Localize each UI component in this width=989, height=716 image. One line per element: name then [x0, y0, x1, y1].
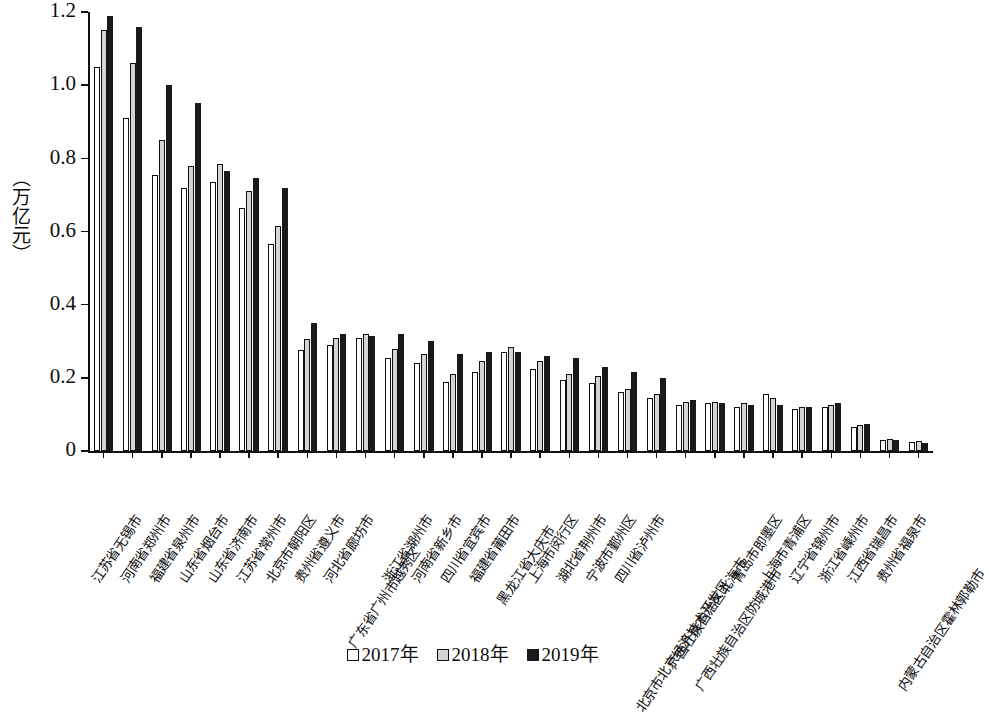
bar-group: [555, 12, 584, 451]
bar-group: [235, 12, 264, 451]
bar: [392, 349, 398, 451]
bar: [660, 378, 666, 451]
bar: [304, 339, 310, 451]
bar: [268, 244, 274, 451]
bar: [676, 405, 682, 451]
bar: [239, 208, 245, 451]
bar: [450, 374, 456, 451]
bar-group: [147, 12, 176, 451]
bar: [618, 392, 624, 451]
bar: [152, 175, 158, 451]
bar: [217, 164, 223, 451]
bar: [544, 356, 550, 451]
bar-group: [409, 12, 438, 451]
bar: [311, 323, 317, 451]
bar-group: [846, 12, 875, 451]
x-axis-label-text: 内蒙古自治区霍林郭勒市: [896, 567, 988, 693]
bar: [719, 403, 725, 451]
bar: [647, 398, 653, 451]
bar: [398, 334, 404, 451]
bar: [566, 374, 572, 451]
bar: [224, 171, 230, 451]
bar: [101, 30, 107, 451]
y-axis-tick-label: 0.6: [50, 220, 76, 241]
bar-group: [497, 12, 526, 451]
y-axis-tick: 0.6: [81, 231, 88, 233]
bar-group: [788, 12, 817, 451]
legend-item[interactable]: 2018年: [437, 645, 509, 665]
y-axis-tick: 0.8: [81, 158, 88, 160]
y-axis-tick-label: 0: [66, 439, 77, 460]
bar-group: [351, 12, 380, 451]
legend-item[interactable]: 2019年: [527, 645, 599, 665]
bar: [479, 361, 485, 451]
bar: [501, 352, 507, 451]
y-axis-tick-label: 1.2: [50, 0, 76, 21]
bar-group: [817, 12, 846, 451]
bar-group: [438, 12, 467, 451]
bar-group: [526, 12, 555, 451]
bar: [763, 394, 769, 451]
bar: [369, 336, 375, 451]
bar: [282, 188, 288, 451]
bar: [130, 63, 136, 451]
bar-group: [759, 12, 788, 451]
bar: [421, 354, 427, 451]
bar: [486, 352, 492, 451]
bar: [246, 191, 252, 451]
y-axis-tick: 0.4: [81, 304, 88, 306]
bar: [298, 350, 304, 451]
bar: [631, 372, 637, 451]
y-axis-tick: 0: [81, 450, 88, 452]
bar-group: [613, 12, 642, 451]
bar-group: [904, 12, 933, 451]
bar: [690, 400, 696, 451]
legend-swatch: [437, 649, 449, 661]
bar: [851, 427, 857, 451]
bar: [589, 383, 595, 451]
bar: [107, 16, 113, 451]
bar: [828, 405, 834, 451]
bar-group: [700, 12, 729, 451]
bar: [864, 424, 870, 451]
bar: [136, 27, 142, 451]
bar: [340, 334, 346, 451]
bar-group: [584, 12, 613, 451]
bar: [356, 338, 362, 451]
x-axis-labels: 江苏省无锡市河南省郑州市福建省泉州市山东省烟台市山东省济南市江苏省常州市北京市朝…: [89, 452, 933, 622]
bar: [537, 361, 543, 451]
plot-area: 00.20.40.60.81.01.2: [88, 12, 933, 452]
bar: [253, 178, 259, 451]
bar-group: [118, 12, 147, 451]
bar-group: [205, 12, 234, 451]
bar: [822, 407, 828, 451]
y-axis-tick-label: 1.0: [50, 73, 76, 94]
legend-label: 2019年: [542, 645, 599, 665]
bar: [515, 352, 521, 451]
bar: [94, 67, 100, 451]
legend-label: 2017年: [362, 645, 419, 665]
bar: [748, 405, 754, 451]
bar: [806, 407, 812, 451]
bar: [188, 166, 194, 451]
x-axis-label: 内蒙古自治区霍林郭勒市: [981, 452, 989, 578]
bar: [734, 407, 740, 451]
bar: [195, 103, 201, 451]
bar-group: [729, 12, 758, 451]
bar: [602, 367, 608, 451]
legend-item[interactable]: 2017年: [347, 645, 419, 665]
bar: [887, 439, 893, 451]
y-axis-tick-label: 0.2: [50, 366, 76, 387]
bar: [916, 441, 922, 451]
bar: [799, 407, 805, 451]
bar-group: [176, 12, 205, 451]
bar-groups: [89, 12, 933, 451]
bar: [385, 358, 391, 451]
bar: [327, 345, 333, 451]
bar-group: [642, 12, 671, 451]
bar-group: [293, 12, 322, 451]
bar-group: [264, 12, 293, 451]
bar: [792, 409, 798, 451]
bar: [457, 354, 463, 451]
